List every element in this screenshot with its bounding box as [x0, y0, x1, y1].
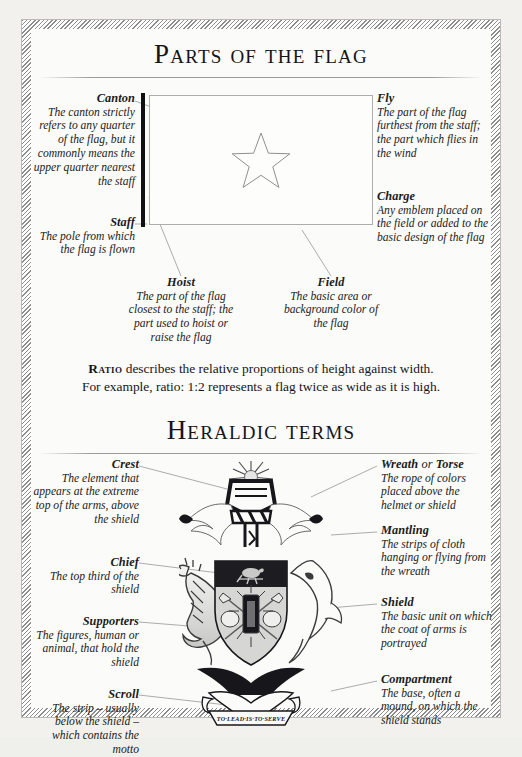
label-charge-desc: Any emblem placed on the field or added …	[377, 204, 491, 245]
mantling-left	[179, 504, 237, 545]
label-supporters: Supporters The figures, human or animal,…	[31, 614, 139, 670]
label-fly: Fly The part of the flag furthest from t…	[377, 91, 491, 161]
label-hoist-desc: The part of the flag closest to the staf…	[121, 290, 241, 345]
label-shield-desc: The basic unit on which the coat of arms…	[381, 610, 493, 651]
helmet-icon	[227, 481, 275, 513]
label-compartment-term: Compartment	[381, 672, 493, 687]
label-crest-term: Crest	[31, 457, 139, 472]
label-wreath-term: Wreath or Torse	[381, 457, 493, 472]
label-scroll-term: Scroll	[31, 687, 139, 702]
label-supporters-desc: The figures, human or animal, that hold …	[31, 629, 139, 670]
star-icon	[141, 95, 373, 225]
ratio-note: Ratio describes the relative proportions…	[37, 360, 485, 396]
label-wreath-term-join: or	[421, 457, 432, 471]
label-chief-term: Chief	[31, 555, 139, 570]
ratio-line-1: describes the relative proportions of he…	[126, 361, 434, 376]
label-canton: Canton The canton strictly refers to any…	[31, 91, 135, 188]
label-crest: Crest The element that appears at the ex…	[31, 457, 139, 527]
flag-diagram	[141, 95, 373, 225]
compartment	[197, 668, 305, 715]
label-scroll: Scroll The strip – usually below the shi…	[31, 687, 139, 757]
label-fly-term: Fly	[377, 91, 491, 106]
label-wreath-term-a: Wreath	[381, 457, 418, 471]
shield	[215, 561, 287, 665]
label-field: Field The basic area or background color…	[277, 275, 385, 331]
coat-of-arms-illustration: TO·LEAD·IS·TO·SERVE	[179, 461, 343, 731]
label-canton-desc: The canton strictly refers to any quarte…	[31, 106, 135, 189]
label-compartment-desc: The base, often a mound, on which the sh…	[381, 687, 493, 728]
label-compartment: Compartment The base, often a mound, on …	[381, 672, 493, 728]
label-staff: Staff The pole from which the flag is fl…	[31, 215, 135, 257]
label-crest-desc: The element that appears at the extreme …	[31, 472, 139, 527]
label-wreath-desc: The rope of colors placed above the helm…	[381, 472, 493, 513]
page-title-heraldic-terms: Heraldic terms	[31, 417, 491, 444]
lightning-detail	[249, 531, 255, 545]
label-wreath-torse: Wreath or Torse The rope of colors place…	[381, 457, 493, 513]
label-hoist: Hoist The part of the flag closest to th…	[121, 275, 241, 345]
label-shield-term: Shield	[381, 595, 493, 610]
label-wreath-term-b: Torse	[436, 457, 464, 471]
label-supporters-term: Supporters	[31, 614, 139, 629]
label-mantling-term: Mantling	[381, 523, 493, 538]
content-sheet: Parts of the flag Canton The canton stri…	[31, 29, 491, 708]
coat-of-arms-svg: TO·LEAD·IS·TO·SERVE	[179, 461, 343, 731]
label-canton-term: Canton	[31, 91, 135, 106]
label-field-term: Field	[277, 275, 385, 290]
label-charge: Charge Any emblem placed on the field or…	[377, 189, 491, 245]
label-charge-term: Charge	[377, 189, 491, 204]
label-field-desc: The basic area or background color of th…	[277, 290, 385, 331]
label-mantling-desc: The strips of cloth hanging or flying fr…	[381, 538, 493, 579]
label-chief-desc: The top third of the shield	[31, 570, 139, 598]
scroll-motto-text: TO·LEAD·IS·TO·SERVE	[217, 716, 285, 722]
scroll: TO·LEAD·IS·TO·SERVE	[202, 697, 300, 725]
supporter-shark	[289, 561, 342, 663]
label-staff-term: Staff	[31, 215, 135, 230]
wreath-torse	[231, 511, 271, 523]
label-mantling: Mantling The strips of cloth hanging or …	[381, 523, 493, 579]
label-shield: Shield The basic unit on which the coat …	[381, 595, 493, 651]
label-hoist-term: Hoist	[121, 275, 241, 290]
label-chief: Chief The top third of the shield	[31, 555, 139, 597]
ratio-line-2: For example, ratio: 1:2 represents a fla…	[82, 379, 440, 394]
ratio-term: Ratio	[88, 361, 122, 376]
label-staff-desc: The pole from which the flag is flown	[31, 230, 135, 258]
label-fly-desc: The part of the flag furthest from the s…	[377, 106, 491, 161]
label-scroll-desc: The strip – usually below the shield – w…	[31, 702, 139, 757]
title-divider-2	[37, 453, 485, 454]
mantling-right	[265, 504, 323, 545]
